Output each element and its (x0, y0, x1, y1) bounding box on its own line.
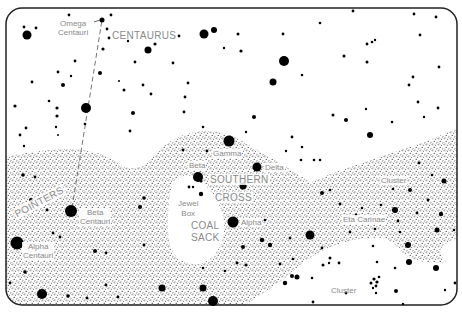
cluster-lower-label: Cluster (331, 286, 356, 295)
omega-arrow-icon (94, 20, 100, 22)
gamma-crucis-star (224, 136, 235, 147)
cross-label: CROSS (214, 192, 253, 203)
eta-carinae-label: Eta Carinae (342, 215, 386, 224)
beta-centauri-label-line2: Centauri (80, 217, 110, 226)
jewel-box-label: Jewel Box (178, 199, 198, 219)
alpha-crucis-star (228, 217, 239, 228)
alpha-centauri-label: Alpha Centauri (22, 242, 54, 260)
centaurus-label: CENTAURUS (112, 30, 176, 41)
delta-label: Delta (264, 163, 285, 172)
delta-crucis-star (253, 163, 262, 172)
coal-sack-label-line1: COAL (191, 220, 219, 232)
jewel-box-label-line1: Jewel (178, 199, 198, 209)
coal-sack-label: COAL SACK (191, 220, 219, 244)
alpha-centauri-label-line2: Centauri (23, 251, 53, 260)
omega-centauri-label: Omega Centauri (58, 19, 88, 37)
omega-centauri-label-line1: Omega (58, 19, 88, 28)
alpha-crucis-label: Alpha (240, 218, 262, 227)
beta-centauri-label: Beta Centauri (79, 208, 111, 226)
beta-centauri-star (65, 205, 77, 217)
omega-centauri-star (100, 18, 105, 23)
beta-centauri-label-line1: Beta (80, 208, 110, 217)
omega-centauri-label-line2: Centauri (58, 28, 88, 37)
southern-label: SOUTHERN (209, 174, 270, 185)
cluster-upper-label: Cluster (380, 176, 407, 185)
alpha-centauri-label-line1: Alpha (23, 242, 53, 251)
jewel-box-label-line2: Box (178, 209, 198, 219)
coal-sack-label-line2: SACK (191, 232, 219, 244)
beta-label: Beta (188, 161, 206, 170)
gamma-label: Gamma (212, 149, 242, 158)
